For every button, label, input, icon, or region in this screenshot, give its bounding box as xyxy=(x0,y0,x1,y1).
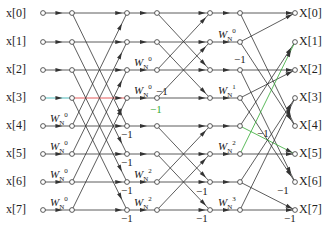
twiddle-s3-3: WN1 xyxy=(218,84,236,99)
minus-one-s3-7: −1 xyxy=(284,213,296,224)
minus-one-s1-5: −1 xyxy=(121,157,133,168)
minus-one-s2-7: −1 xyxy=(196,213,208,224)
output-label-3: X[3] xyxy=(299,91,322,103)
twiddle-s3-5: WN2 xyxy=(218,140,236,155)
minus-one-s2-2: −1 xyxy=(156,86,168,97)
minus-one-s2-6: −1 xyxy=(196,186,208,197)
input-label-6: x[6] xyxy=(6,175,26,187)
output-label-0: X[0] xyxy=(299,7,322,19)
minus-one-s3-5: −1 xyxy=(277,185,289,196)
input-label-7: x[7] xyxy=(6,203,26,215)
minus-one-s2-3: −1 xyxy=(150,104,162,115)
twiddle-s2-3: WN0 xyxy=(134,84,152,99)
output-label-6: X[6] xyxy=(299,175,322,187)
twiddle-s3-7: WN3 xyxy=(218,196,236,211)
twiddle-s2-2: WN0 xyxy=(134,56,152,71)
input-label-1: x[1] xyxy=(6,35,26,47)
input-label-5: x[5] xyxy=(6,147,26,159)
twiddle-s2-6: WN2 xyxy=(134,168,152,183)
minus-one-s1-7: −1 xyxy=(121,213,133,224)
minus-one-s1-6: −1 xyxy=(121,185,133,196)
input-label-0: x[0] xyxy=(6,7,26,19)
twiddle-s1-4: WN0 xyxy=(50,112,68,127)
minus-one-s3-1: −1 xyxy=(234,54,246,65)
twiddle-s1-6: WN0 xyxy=(50,168,68,183)
fft-butterfly-diagram: x[0] x[1] x[2] x[3] x[4] x[5] x[6] x[7] … xyxy=(0,0,336,238)
output-label-4: X[4] xyxy=(299,119,322,131)
output-label-5: X[5] xyxy=(299,147,322,159)
input-label-4: x[4] xyxy=(6,119,26,131)
minus-one-s3-3: −1 xyxy=(257,128,269,139)
input-label-3: x[3] xyxy=(6,91,26,103)
twiddle-s1-7: WN0 xyxy=(50,196,68,211)
input-label-2: x[2] xyxy=(6,63,26,75)
output-label-2: X[2] xyxy=(299,63,322,75)
output-label-7: X[7] xyxy=(299,203,322,215)
minus-one-s1-4: −1 xyxy=(121,129,133,140)
twiddle-s1-5: WN0 xyxy=(50,140,68,155)
twiddle-s3-1: WN0 xyxy=(218,28,236,43)
twiddle-s2-7: WN2 xyxy=(134,196,152,211)
output-label-1: X[1] xyxy=(299,35,322,47)
